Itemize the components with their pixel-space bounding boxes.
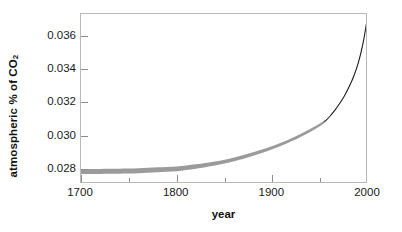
x-tick-label-1800: 1800 (163, 186, 189, 198)
x-tick-label-1900: 1900 (259, 186, 285, 198)
y-axis-title-text: atmospheric % of CO (7, 59, 19, 177)
x-minor-tick-mark-1750 (129, 178, 130, 182)
y-axis-title-subscript: 2 (11, 55, 20, 60)
y-tick-mark-0.034 (81, 69, 88, 70)
co2-concentration-chart: atmospheric % of CO2 0.0280.0300.0320.03… (0, 0, 402, 232)
data-layer (81, 14, 367, 183)
y-tick-label-0.028: 0.028 (26, 162, 76, 174)
x-tick-mark-1800 (177, 175, 178, 182)
plot-area (80, 13, 367, 183)
y-tick-label-0.032: 0.032 (26, 95, 76, 107)
y-tick-label-0.036: 0.036 (26, 29, 76, 41)
y-axis-title: atmospheric % of CO2 (0, 0, 26, 232)
uncertainty-band-ice-core (81, 120, 325, 174)
instrumental-record-line (325, 14, 367, 121)
x-axis-title: year (80, 208, 367, 220)
x-tick-label-1700: 1700 (67, 186, 93, 198)
y-tick-mark-0.036 (81, 36, 88, 37)
y-tick-mark-0.032 (81, 102, 88, 103)
x-minor-tick-mark-1850 (225, 178, 226, 182)
y-tick-label-group: 0.0280.0300.0320.0340.036 (26, 13, 76, 183)
x-tick-label-2000: 2000 (354, 186, 380, 198)
x-tick-label-group: 1700180019002000 (80, 186, 367, 204)
y-tick-mark-0.030 (81, 136, 88, 137)
x-minor-tick-mark-1950 (320, 178, 321, 182)
y-tick-mark-0.028 (81, 169, 88, 170)
y-tick-label-0.030: 0.030 (26, 129, 76, 141)
y-tick-label-0.034: 0.034 (26, 62, 76, 74)
x-tick-mark-1700 (81, 175, 82, 182)
x-tick-mark-1900 (272, 175, 273, 182)
